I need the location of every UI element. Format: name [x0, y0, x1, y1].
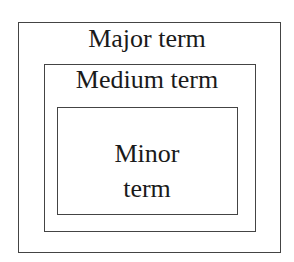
major-term-label: Major term	[0, 25, 294, 53]
minor-term-line2: term	[0, 171, 294, 206]
medium-term-label: Medium term	[0, 66, 294, 94]
minor-term-line1: Minor	[0, 136, 294, 171]
minor-term-label: Minor term	[0, 136, 294, 206]
